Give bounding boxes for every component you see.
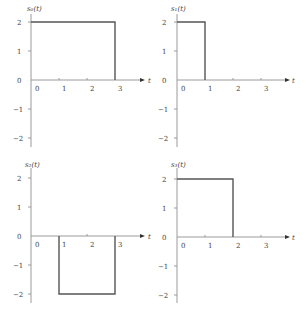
svg-text:−2: −2 bbox=[13, 291, 23, 299]
signal-line bbox=[59, 236, 115, 294]
plot-s1: t s₁(t) 2 1 0 −1 −2 0 1 2 3 bbox=[158, 5, 295, 147]
plot-title: s₃(t) bbox=[171, 161, 186, 169]
svg-text:−1: −1 bbox=[158, 263, 168, 271]
svg-text:0: 0 bbox=[35, 85, 39, 93]
svg-text:−2: −2 bbox=[158, 292, 168, 300]
arrow-icon bbox=[140, 234, 145, 238]
svg-text:−1: −1 bbox=[13, 262, 23, 270]
svg-text:2: 2 bbox=[162, 19, 166, 27]
svg-text:2: 2 bbox=[162, 176, 166, 184]
plot-title: s₀(t) bbox=[27, 5, 42, 13]
svg-text:t: t bbox=[292, 77, 295, 85]
svg-text:1: 1 bbox=[17, 204, 21, 212]
arrow-icon bbox=[140, 78, 145, 82]
svg-text:0: 0 bbox=[181, 242, 185, 250]
svg-text:3: 3 bbox=[118, 241, 122, 249]
plot-title: s₁(t) bbox=[171, 5, 186, 13]
svg-text:2: 2 bbox=[90, 85, 94, 93]
svg-text:1: 1 bbox=[62, 241, 66, 249]
plot-s0: t s₀(t) 2 1 0 −1 −2 0 1 2 3 bbox=[13, 5, 151, 147]
svg-text:−2: −2 bbox=[158, 135, 168, 143]
svg-text:3: 3 bbox=[264, 85, 268, 93]
svg-text:1: 1 bbox=[162, 205, 166, 213]
arrow-icon bbox=[285, 235, 290, 239]
svg-text:0: 0 bbox=[181, 85, 185, 93]
svg-text:0: 0 bbox=[162, 234, 166, 242]
signal-line bbox=[177, 22, 205, 80]
svg-text:2: 2 bbox=[90, 241, 94, 249]
svg-text:3: 3 bbox=[118, 85, 122, 93]
arrow-icon bbox=[285, 78, 290, 82]
signal-plots: t s₀(t) 2 1 0 −1 −2 0 1 2 3 t s₁(t) 2 1 … bbox=[0, 0, 307, 322]
signal-line bbox=[177, 179, 233, 237]
svg-text:t: t bbox=[292, 234, 295, 242]
svg-text:1: 1 bbox=[62, 85, 66, 93]
svg-text:1: 1 bbox=[208, 242, 212, 250]
svg-text:0: 0 bbox=[17, 77, 21, 85]
svg-text:1: 1 bbox=[208, 85, 212, 93]
svg-text:2: 2 bbox=[236, 242, 240, 250]
svg-text:0: 0 bbox=[35, 241, 39, 249]
plot-s2: t s₂(t) 2 1 0 −1 −2 0 1 2 3 bbox=[13, 161, 151, 303]
x-axis-label: t bbox=[148, 77, 151, 85]
svg-text:−2: −2 bbox=[13, 135, 23, 143]
plot-s3: t s₃(t) 2 1 0 −1 −2 0 1 2 3 bbox=[158, 161, 295, 303]
svg-text:1: 1 bbox=[162, 48, 166, 56]
svg-text:1: 1 bbox=[17, 48, 21, 56]
svg-text:0: 0 bbox=[17, 233, 21, 241]
svg-text:2: 2 bbox=[17, 175, 21, 183]
svg-text:2: 2 bbox=[236, 85, 240, 93]
signal-line bbox=[31, 22, 115, 80]
svg-text:0: 0 bbox=[162, 77, 166, 85]
svg-text:−1: −1 bbox=[158, 106, 168, 114]
svg-text:t: t bbox=[148, 233, 151, 241]
svg-text:3: 3 bbox=[264, 242, 268, 250]
plot-title: s₂(t) bbox=[25, 161, 40, 169]
svg-text:−1: −1 bbox=[13, 106, 23, 114]
svg-text:2: 2 bbox=[17, 19, 21, 27]
